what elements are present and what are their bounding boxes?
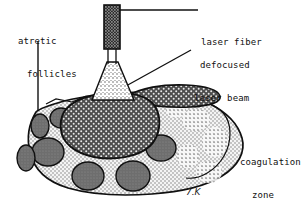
label-coagulation-zone: coagulation zone (wedge) [240, 135, 301, 211]
leader-defocused-beam [126, 50, 191, 86]
atretic-follicle [32, 138, 64, 166]
label-coagulation-line1: coagulation [240, 157, 301, 168]
label-atretic-line1: atretic [18, 36, 77, 47]
defocused-beam-cone [92, 62, 134, 100]
label-atretic-line2: follicles [18, 69, 77, 80]
artist-signature: 7.K [186, 187, 201, 197]
atretic-follicle [116, 161, 150, 191]
atretic-follicle [17, 145, 35, 171]
label-coagulation-line2: zone [240, 190, 301, 201]
laser-fiber [104, 5, 120, 64]
atretic-follicle [31, 114, 49, 138]
label-defocused-laser-beam: defocused laser beam [194, 38, 250, 126]
coagulation-wedge [61, 93, 160, 159]
figure-canvas: atretic follicles laser fiber defocused … [0, 0, 304, 211]
atretic-follicle [72, 162, 104, 190]
label-beam-line2: laser beam [194, 93, 250, 104]
label-atretic-follicles: atretic follicles [18, 14, 77, 102]
label-beam-line1: defocused [194, 60, 250, 71]
